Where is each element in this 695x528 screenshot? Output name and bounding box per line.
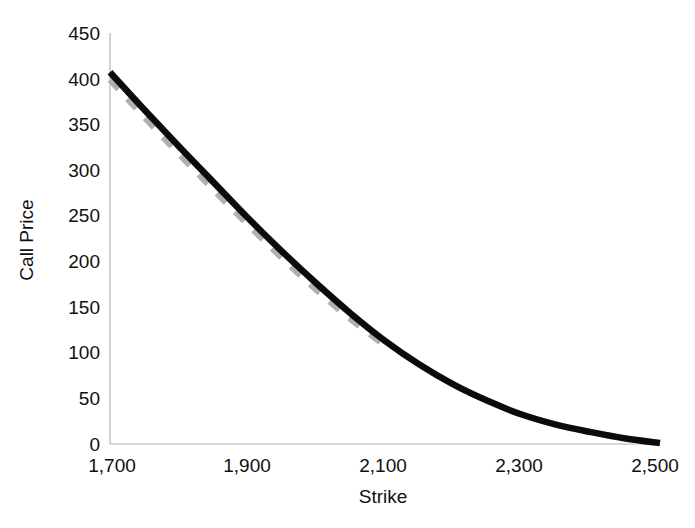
y-tick-label: 50: [79, 388, 100, 409]
x-tick-label: 1,900: [223, 455, 271, 476]
x-tick-label: 2,300: [495, 455, 543, 476]
y-tick-label: 0: [89, 434, 100, 455]
x-tick-label: 2,500: [631, 455, 679, 476]
chart-figure: 450 400 350 300 250 200 150 100 50 0 1,7…: [0, 0, 695, 528]
y-tick-label: 100: [68, 342, 100, 363]
y-tick-labels: 450 400 350 300 250 200 150 100 50 0: [68, 23, 100, 455]
y-tick-label: 250: [68, 205, 100, 226]
series-group: [110, 72, 660, 443]
y-tick-label: 450: [68, 23, 100, 44]
y-tick-label: 350: [68, 114, 100, 135]
x-axis-title: Strike: [359, 486, 408, 507]
y-tick-label: 400: [68, 69, 100, 90]
y-tick-label: 150: [68, 297, 100, 318]
x-tick-label: 2,100: [359, 455, 407, 476]
x-tick-label: 1,700: [88, 455, 136, 476]
y-axis-title: Call Price: [16, 199, 37, 280]
x-tick-labels: 1,700 1,900 2,100 2,300 2,500: [88, 455, 679, 476]
y-tick-label: 300: [68, 160, 100, 181]
solid-black-curve: [110, 72, 660, 443]
axis-lines: [110, 33, 660, 444]
y-tick-label: 200: [68, 251, 100, 272]
chart-canvas: 450 400 350 300 250 200 150 100 50 0 1,7…: [0, 0, 695, 528]
